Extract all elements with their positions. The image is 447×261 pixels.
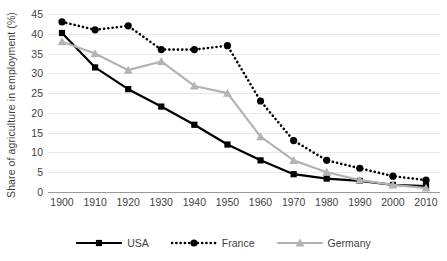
series-layer	[48, 14, 440, 192]
plot-area	[48, 14, 440, 192]
legend-swatch-triangle-icon	[277, 237, 323, 249]
legend-item-germany[interactable]: Germany	[277, 237, 371, 249]
data-point-marker	[157, 57, 166, 65]
data-point-marker	[58, 37, 67, 45]
data-point-marker	[224, 141, 230, 147]
data-point-marker	[191, 122, 197, 128]
data-point-marker	[291, 171, 297, 177]
x-tick-label: 1920	[116, 196, 139, 208]
x-tick-label: 1930	[150, 196, 173, 208]
data-point-marker	[224, 42, 231, 49]
y-tick-label: 25	[31, 88, 43, 98]
legend-label: USA	[127, 237, 149, 249]
series-line	[62, 33, 426, 186]
series-line	[62, 42, 426, 188]
data-point-marker	[422, 177, 429, 184]
data-point-marker	[58, 18, 65, 25]
data-point-marker	[257, 157, 263, 163]
data-point-marker	[356, 165, 363, 172]
legend-label: Germany	[328, 237, 371, 249]
y-tick-label: 10	[31, 147, 43, 157]
data-point-marker	[323, 157, 330, 164]
x-tick-label: 1900	[50, 196, 73, 208]
series-line	[62, 22, 426, 180]
x-tick-label: 2000	[381, 196, 404, 208]
legend-swatch-square-icon	[76, 237, 122, 249]
chart-legend: USAFranceGermany	[0, 232, 447, 254]
legend-swatch-circle-icon	[171, 237, 217, 249]
y-axis-title: Share of agriculture in employment (%)	[0, 0, 22, 210]
x-tick-label: 1980	[315, 196, 338, 208]
y-tick-label: 0	[37, 187, 43, 197]
series-france	[58, 18, 429, 183]
y-tick-label: 5	[37, 167, 43, 177]
x-tick-label: 1950	[216, 196, 239, 208]
y-tick-label: 30	[31, 68, 43, 78]
y-tick-label: 45	[31, 9, 43, 19]
data-point-marker	[191, 46, 198, 53]
legend-item-usa[interactable]: USA	[76, 237, 149, 249]
data-point-marker	[158, 46, 165, 53]
data-point-marker	[158, 103, 164, 109]
data-point-marker	[125, 22, 132, 29]
x-tick-label: 1940	[183, 196, 206, 208]
y-tick-label: 20	[31, 108, 43, 118]
y-tick-label: 35	[31, 49, 43, 59]
line-chart: Share of agriculture in employment (%) 0…	[0, 0, 447, 261]
x-tick-label: 1960	[249, 196, 272, 208]
data-point-marker	[91, 26, 98, 33]
data-point-marker	[125, 86, 131, 92]
x-tick-label: 2010	[414, 196, 437, 208]
y-tick-label: 40	[31, 29, 43, 39]
data-point-marker	[92, 64, 98, 70]
data-point-marker	[59, 30, 65, 36]
data-point-marker	[290, 137, 297, 144]
data-point-marker	[389, 173, 396, 180]
x-axis-tick-labels: 1900191019201930194019501960197019801990…	[48, 196, 440, 214]
y-axis-title-text: Share of agriculture in employment (%)	[5, 12, 17, 198]
x-tick-label: 1990	[348, 196, 371, 208]
legend-item-france[interactable]: France	[171, 237, 255, 249]
data-point-marker	[257, 97, 264, 104]
y-axis-tick-labels: 051015202530354045	[22, 14, 46, 192]
legend-label: France	[222, 237, 255, 249]
x-tick-label: 1970	[282, 196, 305, 208]
data-point-marker	[324, 175, 330, 181]
y-tick-label: 15	[31, 128, 43, 138]
x-tick-label: 1910	[83, 196, 106, 208]
series-germany	[58, 37, 431, 191]
series-usa	[59, 30, 429, 189]
x-axis-line	[48, 192, 440, 193]
